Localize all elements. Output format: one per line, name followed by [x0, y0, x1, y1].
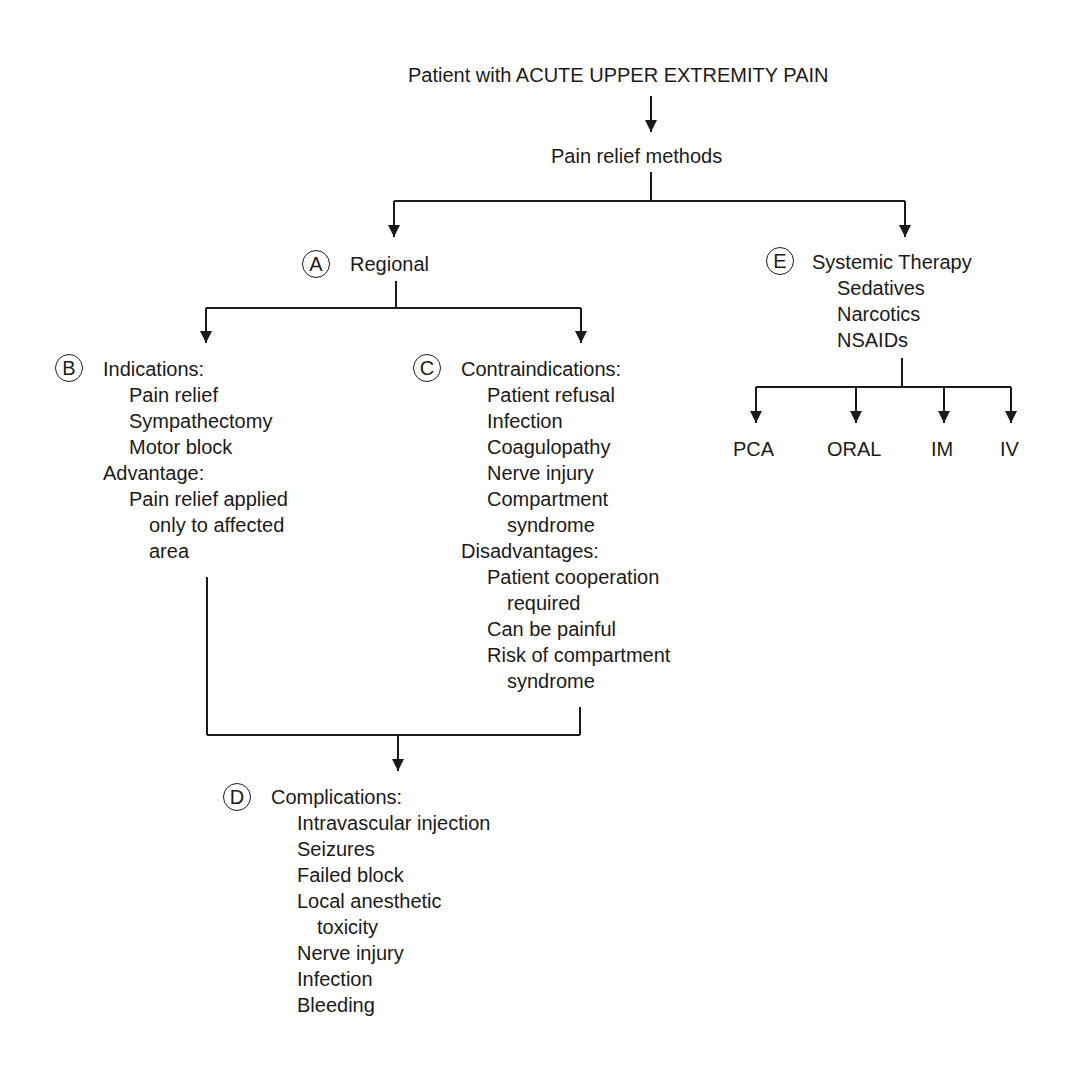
contraindications-title: Contraindications:	[461, 356, 670, 382]
contraindication-item: Compartment	[461, 486, 670, 512]
root-node: Patient with ACUTE UPPER EXTREMITY PAIN	[408, 62, 829, 88]
indications-block: Indications: Pain relief Sympathectomy M…	[103, 356, 288, 564]
indication-item: Pain relief	[103, 382, 288, 408]
route-pca: PCA	[733, 436, 774, 462]
complication-item: Failed block	[271, 862, 490, 888]
advantage-item: only to affected	[103, 512, 288, 538]
contraindication-item: Coagulopathy	[461, 434, 670, 460]
disadvantages-title: Disadvantages:	[461, 538, 670, 564]
systemic-item: Narcotics	[837, 301, 925, 327]
contraindication-item: syndrome	[461, 512, 670, 538]
complication-item: toxicity	[271, 914, 490, 940]
contraindications-block: Contraindications: Patient refusal Infec…	[461, 356, 670, 694]
label-b-circle: B	[55, 354, 83, 382]
label-e-circle: E	[766, 247, 794, 275]
disadvantage-item: syndrome	[461, 668, 670, 694]
label-c-circle: C	[413, 354, 441, 382]
systemic-item: Sedatives	[837, 275, 925, 301]
contraindication-item: Patient refusal	[461, 382, 670, 408]
contraindication-item: Infection	[461, 408, 670, 434]
complications-block: Complications: Intravascular injection S…	[271, 784, 490, 1018]
indications-title: Indications:	[103, 356, 288, 382]
label-a-circle: A	[302, 250, 330, 278]
complication-item: Intravascular injection	[271, 810, 490, 836]
systemic-item: NSAIDs	[837, 327, 925, 353]
regional-node: Regional	[350, 251, 429, 277]
route-oral: ORAL	[827, 436, 881, 462]
disadvantage-item: Patient cooperation	[461, 564, 670, 590]
complications-title: Complications:	[271, 784, 490, 810]
advantage-title: Advantage:	[103, 460, 288, 486]
complication-item: Seizures	[271, 836, 490, 862]
systemic-items: Sedatives Narcotics NSAIDs	[837, 275, 925, 353]
disadvantage-item: Risk of compartment	[461, 642, 670, 668]
disadvantage-item: Can be painful	[461, 616, 670, 642]
complication-item: Bleeding	[271, 992, 490, 1018]
disadvantage-item: required	[461, 590, 670, 616]
advantage-item: area	[103, 538, 288, 564]
complication-item: Local anesthetic	[271, 888, 490, 914]
systemic-title: Systemic Therapy	[812, 249, 972, 275]
methods-node: Pain relief methods	[551, 143, 722, 169]
complication-item: Infection	[271, 966, 490, 992]
label-d-circle: D	[223, 783, 251, 811]
advantage-item: Pain relief applied	[103, 486, 288, 512]
indication-item: Sympathectomy	[103, 408, 288, 434]
indication-item: Motor block	[103, 434, 288, 460]
contraindication-item: Nerve injury	[461, 460, 670, 486]
route-iv: IV	[1000, 436, 1019, 462]
route-im: IM	[931, 436, 953, 462]
complication-item: Nerve injury	[271, 940, 490, 966]
